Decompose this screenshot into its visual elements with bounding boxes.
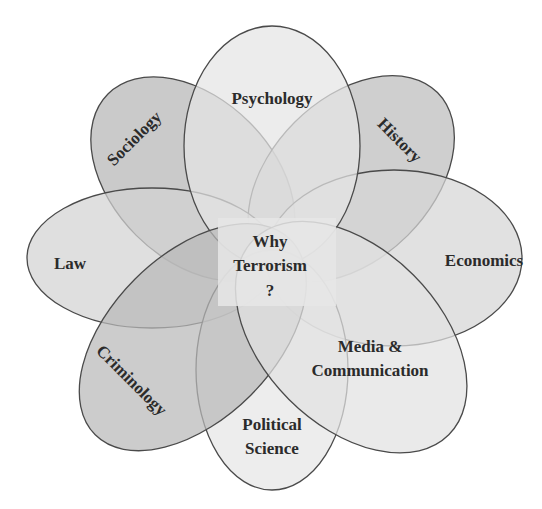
label-political-science-line-1: Political	[242, 415, 302, 434]
label-psychology: Psychology	[231, 89, 313, 108]
label-media-line-1: Media &	[338, 337, 403, 356]
venn-flower-diagram: PsychologyHistoryEconomicsMedia &Communi…	[0, 0, 542, 509]
label-media-line-2: Communication	[311, 361, 429, 380]
center-label-line-2: Terrorism	[233, 256, 307, 275]
label-economics: Economics	[445, 251, 524, 270]
label-political-science-line-2: Science	[245, 439, 299, 458]
center-label-line-3: ?	[266, 281, 275, 300]
center-label-line-1: Why	[253, 232, 288, 251]
label-law: Law	[54, 254, 87, 273]
